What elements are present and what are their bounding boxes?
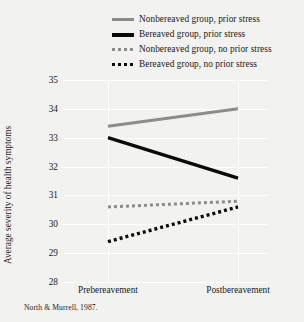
y-tick-label: 34 (49, 104, 58, 113)
x-tick-label: Prebereavement (78, 285, 138, 295)
legend-item-3: Bereaved group, no prior stress (112, 57, 304, 72)
y-tick-label: 30 (49, 220, 58, 229)
y-axis-title-text: Average severity of health symptoms (3, 95, 13, 295)
source-note: North & Murrell, 1987. (24, 303, 98, 312)
series-line-1 (108, 138, 238, 178)
plot-area (62, 80, 268, 282)
legend-item-2: Nonbereaved group, no prior stress (112, 42, 304, 57)
plot-area-wrapper: 2829303132333435 (36, 80, 268, 282)
x-axis-ticks: PrebereavementPostbereavement (62, 285, 304, 299)
legend-item-1: Bereaved group, prior stress (112, 27, 304, 42)
series-line-3 (108, 207, 238, 242)
legend-label-1: Bereaved group, prior stress (139, 29, 245, 40)
y-tick-label: 33 (49, 133, 58, 142)
legend-label-2: Nonbereaved group, no prior stress (139, 44, 272, 55)
chart-legend: Nonbereaved group, prior stress Bereaved… (112, 12, 304, 72)
y-tick-label: 35 (49, 76, 58, 85)
legend-swatch-nonbereaved-no-prior-stress-icon (112, 44, 134, 56)
legend-swatch-bereaved-no-prior-stress-icon (112, 59, 134, 71)
series-line-2 (108, 201, 238, 207)
legend-swatch-nonbereaved-prior-stress-icon (112, 14, 134, 26)
y-axis-title: Average severity of health symptoms (0, 0, 16, 322)
legend-label-0: Nonbereaved group, prior stress (139, 14, 260, 25)
y-tick-label: 29 (49, 249, 58, 258)
legend-swatch-bereaved-prior-stress-icon (112, 29, 134, 41)
y-axis-ticks: 2829303132333435 (36, 80, 58, 282)
y-tick-label: 32 (49, 162, 58, 171)
legend-label-3: Bereaved group, no prior stress (139, 59, 257, 70)
series-line-0 (108, 109, 238, 126)
y-tick-label: 31 (49, 191, 58, 200)
legend-item-0: Nonbereaved group, prior stress (112, 12, 304, 27)
series-lines (62, 80, 268, 282)
y-tick-label: 28 (49, 278, 58, 287)
gridline-horizontal (62, 282, 268, 283)
x-tick-label: Postbereavement (206, 285, 270, 295)
chart-figure: Nonbereaved group, prior stress Bereaved… (0, 0, 304, 322)
